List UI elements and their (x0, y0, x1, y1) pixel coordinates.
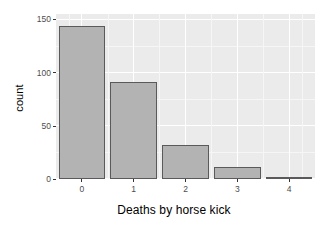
y-tick-150: 150 (37, 14, 56, 24)
y-tick-label: 150 (37, 14, 51, 24)
y-axis: 050100150 (28, 14, 56, 182)
gridline-minor-vertical (159, 14, 160, 179)
x-tick-mark (289, 179, 290, 182)
x-tick-1: 1 (119, 179, 149, 194)
x-axis-title: Deaths by horse kick (30, 203, 318, 221)
chart-figure: count 050100150 01234 Deaths by horse ki… (0, 0, 328, 231)
y-axis-title-label: count (13, 84, 25, 111)
y-tick-0: 0 (46, 174, 56, 184)
y-tick-label: 50 (42, 121, 51, 131)
x-tick-3: 3 (222, 179, 252, 194)
y-tick-label: 100 (37, 68, 51, 78)
y-tick-50: 50 (42, 121, 56, 131)
bar-2 (162, 145, 209, 179)
gridline-minor-vertical (263, 14, 264, 179)
gridline-minor-vertical (108, 14, 109, 179)
x-tick-2: 2 (171, 179, 201, 194)
x-tick-0: 0 (67, 179, 97, 194)
bar-3 (214, 167, 261, 179)
gridline-major-vertical (237, 14, 238, 179)
x-tick-mark (81, 179, 82, 182)
bar-0 (59, 26, 106, 179)
x-axis: 01234 (56, 179, 315, 203)
plot-panel (56, 14, 315, 179)
gridline-major-vertical (289, 14, 290, 179)
x-tick-mark (133, 179, 134, 182)
x-tick-label: 2 (171, 184, 201, 194)
x-tick-label: 0 (67, 184, 97, 194)
y-axis-title: count (9, 0, 29, 196)
x-tick-label: 3 (222, 184, 252, 194)
x-tick-4: 4 (274, 179, 304, 194)
y-tick-label: 0 (46, 174, 51, 184)
bar-1 (110, 82, 157, 179)
x-tick-label: 4 (274, 184, 304, 194)
gridline-minor-vertical (211, 14, 212, 179)
gridline-minor-vertical (302, 14, 303, 179)
x-tick-label: 1 (119, 184, 149, 194)
x-tick-mark (185, 179, 186, 182)
y-tick-100: 100 (37, 68, 56, 78)
x-tick-mark (237, 179, 238, 182)
